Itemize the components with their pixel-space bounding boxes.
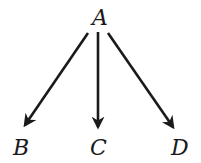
edge-a-to-b bbox=[25, 33, 88, 125]
node-c-label: C bbox=[90, 135, 107, 160]
edge-a-to-d bbox=[108, 33, 173, 127]
node-b-label: B bbox=[12, 135, 29, 160]
tree-diagram: A B C D bbox=[0, 0, 201, 163]
node-a-label: A bbox=[90, 5, 108, 30]
node-d-label: D bbox=[170, 135, 189, 160]
